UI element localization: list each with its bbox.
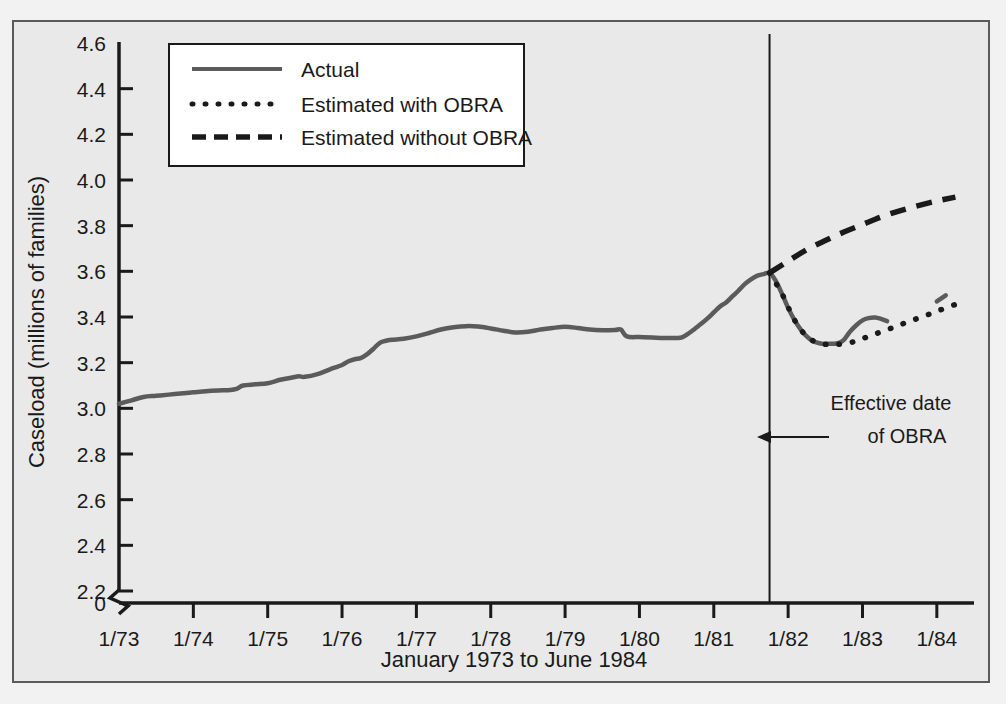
series-line	[770, 273, 956, 344]
obra-annotation: Effective date of OBRA	[757, 392, 951, 447]
obra-annotation-line1: Effective date	[831, 392, 952, 414]
legend-label-actual: Actual	[301, 58, 359, 81]
y-tick-label: 3.6	[77, 260, 106, 283]
y-tick-label: 4.4	[77, 78, 107, 101]
y-tick-label: 2.4	[77, 534, 107, 557]
y-tick-label: 3.4	[77, 306, 107, 329]
y-tick-label: 4.2	[77, 123, 106, 146]
series-line	[937, 295, 946, 301]
y-tick-label: 3.8	[77, 215, 106, 238]
legend-label-estimated-without-obra: Estimated without OBRA	[301, 126, 532, 149]
y-axis-title: Caseload (millions of families)	[24, 176, 49, 468]
x-tick-label: 1/74	[173, 627, 214, 650]
x-tick-label: 1/82	[768, 627, 809, 650]
x-tick-label: 1/75	[247, 627, 288, 650]
y-tick-marks	[119, 89, 133, 591]
x-tick-label: 1/81	[693, 627, 734, 650]
data-series-group	[119, 197, 955, 404]
obra-arrow-head	[757, 431, 771, 443]
y-tick-label: 2.6	[77, 489, 106, 512]
x-tick-label: 1/73	[99, 627, 140, 650]
series-line	[119, 273, 887, 404]
y-tick-label: 3.2	[77, 352, 106, 375]
legend-label-estimated-with-obra: Estimated with OBRA	[301, 93, 503, 116]
y-tick-label: 4.0	[77, 169, 106, 192]
series-line	[770, 197, 956, 273]
y-axis-zero-label: 0	[94, 592, 106, 615]
y-tick-label: 2.8	[77, 443, 106, 466]
obra-annotation-line2: of OBRA	[868, 425, 948, 447]
x-tick-label: 1/83	[842, 627, 883, 650]
x-tick-marks	[193, 603, 936, 618]
x-tick-label: 1/84	[916, 627, 957, 650]
chart-figure: 4.64.44.24.03.83.63.43.23.02.82.62.42.2 …	[12, 20, 990, 683]
y-tick-label: 4.6	[77, 32, 106, 55]
y-tick-label: 3.0	[77, 397, 106, 420]
y-tick-labels: 4.64.44.24.03.83.63.43.23.02.82.62.42.2	[77, 32, 107, 603]
x-axis-title: January 1973 to June 1984	[381, 647, 648, 672]
x-tick-label: 1/76	[322, 627, 363, 650]
chart-legend: Actual Estimated with OBRA Estimated wit…	[169, 44, 532, 166]
caseload-line-chart: 4.64.44.24.03.83.63.43.23.02.82.62.42.2 …	[14, 22, 988, 681]
